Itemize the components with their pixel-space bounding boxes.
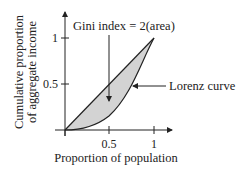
y-axis-title-line2: of aggregate income	[25, 21, 39, 123]
x-tick-label-one: 1	[151, 137, 157, 151]
lorenz-curve-chart: 0.5 1 0.5 1 Proportion of population Cum…	[0, 0, 243, 171]
y-tick-label-one: 1	[52, 31, 58, 45]
lorenz-curve-annotation: Lorenz curve	[169, 79, 236, 93]
x-axis-title: Proportion of population	[54, 151, 178, 165]
y-axis-title-line1: Cumulative proportion	[12, 14, 26, 129]
x-tick-label-half: 0.5	[102, 137, 117, 151]
gini-index-annotation: Gini index = 2(area)	[73, 19, 175, 33]
y-tick-label-half: 0.5	[43, 77, 58, 91]
